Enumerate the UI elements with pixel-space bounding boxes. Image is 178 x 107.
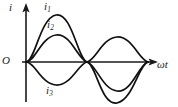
curve-label-i2: i2 [47, 19, 54, 30]
waveform-figure: i O ωt i1 i2 i3 [0, 0, 178, 107]
vertical-axis-label: i [9, 2, 12, 13]
curve-label-i1: i1 [44, 1, 51, 12]
vertical-axis [22, 3, 29, 102]
curve-label-i2-subscript: 2 [50, 24, 54, 32]
curve-label-i3-subscript: 3 [49, 90, 53, 98]
origin-label: O [2, 55, 10, 66]
horizontal-axis-label: ωt [157, 59, 168, 70]
curve-i3 [26, 37, 148, 85]
curve-label-i3: i3 [46, 85, 53, 96]
curve-label-i1-subscript: 1 [47, 6, 51, 14]
waveform-plot-canvas [0, 0, 178, 107]
curve-i1 [26, 15, 148, 103]
